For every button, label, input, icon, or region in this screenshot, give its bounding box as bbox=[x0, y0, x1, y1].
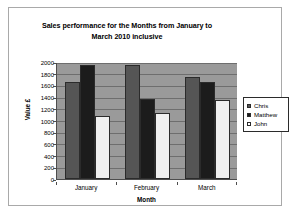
y-tick-label: 1400 bbox=[32, 95, 54, 101]
bar-group bbox=[117, 63, 177, 179]
bar[interactable] bbox=[140, 99, 155, 179]
bar[interactable] bbox=[200, 82, 215, 179]
plot-area bbox=[56, 63, 237, 180]
bar-group bbox=[57, 63, 117, 179]
y-tick-label: 600 bbox=[32, 142, 54, 148]
legend-swatch-icon bbox=[247, 113, 251, 117]
bar[interactable] bbox=[155, 113, 170, 179]
y-tick-label: 2000 bbox=[32, 60, 54, 66]
y-tick-label: 0 bbox=[32, 177, 54, 183]
y-axis-ticks: 0200400600800100012001400160018002000 bbox=[29, 63, 54, 180]
bar[interactable] bbox=[65, 82, 80, 179]
bar[interactable] bbox=[215, 100, 230, 179]
chart-page: Sales performance for the Months from Ja… bbox=[0, 0, 294, 219]
bars-layer bbox=[57, 63, 237, 179]
x-tick-mark bbox=[177, 182, 178, 185]
x-axis-label: Month bbox=[56, 196, 237, 203]
y-tick-label: 200 bbox=[32, 165, 54, 171]
legend-label: Matthew bbox=[254, 111, 277, 118]
y-tick-label: 1000 bbox=[32, 119, 54, 125]
legend-item-matthew[interactable]: Matthew bbox=[247, 110, 286, 119]
bar[interactable] bbox=[185, 77, 200, 179]
x-tick-label: January bbox=[56, 184, 116, 191]
bar[interactable] bbox=[95, 116, 110, 179]
legend-label: Chris bbox=[254, 102, 268, 109]
x-tick-mark bbox=[116, 182, 117, 185]
chart-title-line-1: Sales performance for the Months from Ja… bbox=[27, 21, 227, 32]
y-tick-label: 1200 bbox=[32, 107, 54, 113]
y-tick-label: 1600 bbox=[32, 83, 54, 89]
bar[interactable] bbox=[80, 65, 95, 179]
legend-swatch-icon bbox=[247, 122, 251, 126]
y-tick-label: 1800 bbox=[32, 72, 54, 78]
x-tick-label: March bbox=[177, 184, 237, 191]
legend-swatch-icon bbox=[247, 104, 251, 108]
chart-frame: Sales performance for the Months from Ja… bbox=[8, 7, 282, 206]
chart-title: Sales performance for the Months from Ja… bbox=[27, 21, 227, 42]
x-axis-ticks: JanuaryFebruaryMarch bbox=[56, 182, 237, 194]
x-tick-label: February bbox=[117, 184, 177, 191]
y-tick-label: 800 bbox=[32, 130, 54, 136]
chart-title-line-2: March 2010 inclusive bbox=[27, 32, 227, 43]
chart-legend: ChrisMatthewJohn bbox=[243, 97, 289, 132]
bar-group bbox=[178, 63, 238, 179]
x-tick-mark bbox=[56, 182, 57, 185]
legend-label: John bbox=[254, 120, 267, 127]
legend-item-john[interactable]: John bbox=[247, 119, 286, 128]
y-tick-label: 400 bbox=[32, 154, 54, 160]
bar[interactable] bbox=[125, 65, 140, 179]
x-tick-mark bbox=[236, 182, 237, 185]
legend-item-chris[interactable]: Chris bbox=[247, 101, 286, 110]
